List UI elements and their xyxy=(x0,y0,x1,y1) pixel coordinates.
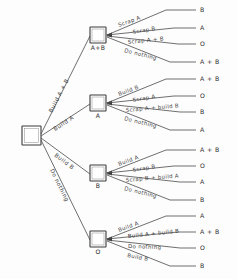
outcome-label-1-1: B xyxy=(200,6,205,13)
tree-svg-canvas: Build A + B Build A Build B Do nothing A… xyxy=(0,0,237,279)
node-label-a-plus-b: A+B xyxy=(91,44,105,51)
node-box-b xyxy=(90,165,106,181)
root-edge-label-build-a: Build A xyxy=(52,114,75,132)
outcome-label-4-4: B xyxy=(200,262,205,269)
node-label-a: A xyxy=(96,112,101,119)
outcome-label-3-1: A + B xyxy=(200,146,220,153)
outcome-label-3-3: A xyxy=(200,178,205,185)
option-label-scrap-b-build-a: Scrap B + build A xyxy=(126,172,180,184)
branch-group-a-plus-b: A+B Scrap A Scrap B Scrap A + B Do nothi… xyxy=(90,6,220,65)
outcome-label-4-2: A + B xyxy=(200,228,220,235)
outcome-label-2-3: B xyxy=(200,108,205,115)
option-label-build-a-build-b: Build A + build B xyxy=(127,228,179,239)
node-label-o: O xyxy=(95,248,100,255)
outcome-label-1-2: A xyxy=(200,24,205,31)
decision-tree-diagram: Build A + B Build A Build B Do nothing A… xyxy=(0,0,237,279)
option-label-build-b-4: Build B xyxy=(127,252,149,262)
root-node-box xyxy=(22,126,41,145)
option-label-scrap-a-build-b: Scrap A + build B xyxy=(126,102,180,114)
node-box-a xyxy=(90,95,106,111)
node-box-o xyxy=(90,231,106,247)
option-label-scrap-a-2: Scrap A xyxy=(132,93,156,104)
outcome-label-2-4: A xyxy=(200,126,205,133)
option-label-do-nothing-3: Do nothing xyxy=(124,185,158,200)
root-edge-build-b xyxy=(41,138,90,174)
option-label-scrap-a-plus-b: Scrap A + B xyxy=(127,35,164,46)
option-label-scrap-b: Scrap B xyxy=(132,25,156,36)
branch-group-a: A Build B Scrap A Scrap A + build B Do n… xyxy=(90,75,220,133)
outcome-label-2-2: O xyxy=(200,92,205,99)
option-label-build-b-2: Build B xyxy=(117,84,139,97)
branch-group-b: B Build A Scrap B Scrap B + build A Do n… xyxy=(90,146,220,203)
option-label-do-nothing-4: Do nothing xyxy=(128,243,161,251)
node-label-b: B xyxy=(96,182,100,189)
root-edge-label-build-a-plus-b: Build A + B xyxy=(48,78,70,114)
node-box-a-plus-b xyxy=(90,27,106,43)
outcome-label-4-3: O xyxy=(200,244,205,251)
option-label-do-nothing-2: Do nothing xyxy=(124,115,158,130)
root-edges xyxy=(41,36,90,240)
option-label-do-nothing-1: Do nothing xyxy=(124,47,158,62)
outcome-label-2-1: A + B xyxy=(200,75,220,82)
branch-group-o: O Build A Build A + build B Do nothing B… xyxy=(90,212,220,269)
option-label-scrap-b-3: Scrap B xyxy=(132,163,156,174)
outcome-label-1-3: O xyxy=(200,40,205,47)
root-node xyxy=(22,126,41,145)
outcome-label-3-4: B xyxy=(200,196,205,203)
outcome-label-1-4: A + B xyxy=(200,58,220,65)
outcome-label-3-2: O xyxy=(200,162,205,169)
root-edge-label-do-nothing: Do nothing xyxy=(48,168,70,203)
outcome-label-4-1: A xyxy=(200,212,205,219)
